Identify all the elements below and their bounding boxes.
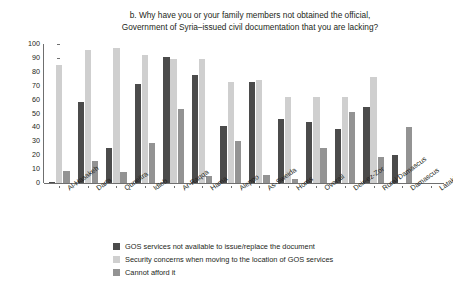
x-tick-mark — [374, 186, 375, 188]
bar-group — [335, 44, 356, 183]
bar — [63, 171, 69, 184]
legend-label: GOS services not available to issue/repl… — [125, 242, 315, 251]
bar-groups — [45, 44, 445, 183]
x-tick-mark — [174, 186, 175, 188]
bar — [206, 176, 212, 183]
bar-group — [392, 44, 413, 183]
bar — [199, 59, 205, 183]
x-tick-mark — [116, 186, 117, 188]
legend-label: Cannot afford it — [125, 268, 175, 277]
y-tick-label-40: 40 — [16, 123, 40, 131]
bar-group — [192, 44, 213, 183]
chart-title-line-1: b. Why have you or your family members n… — [60, 10, 440, 22]
y-tick-label-30: 30 — [16, 137, 40, 145]
bar-group — [106, 44, 127, 183]
bar — [178, 109, 184, 183]
y-tick-label-90: 90 — [16, 54, 40, 62]
x-tick-mark — [231, 186, 232, 188]
y-tick-label-0: 0 — [16, 179, 40, 187]
x-tick-label: Dar'a — [95, 186, 100, 192]
y-tick-label-100: 100 — [16, 40, 40, 48]
legend-swatch-icon — [113, 269, 120, 276]
bar — [320, 148, 326, 183]
bar-group — [135, 44, 156, 183]
bar — [313, 97, 319, 183]
bar — [78, 102, 84, 183]
bar — [306, 122, 312, 183]
x-tick-label: As-Sweida — [266, 186, 271, 192]
bar — [120, 172, 126, 183]
y-tick-label-20: 20 — [16, 151, 40, 159]
bar — [85, 50, 91, 183]
bar-group — [249, 44, 270, 183]
x-tick-label: Quneitra — [123, 186, 128, 192]
bar-group — [49, 44, 70, 183]
legend-swatch-icon — [113, 243, 120, 250]
x-tick-mark — [288, 186, 289, 188]
bar — [142, 55, 148, 183]
x-tick-label: Homs — [295, 186, 300, 192]
bar — [342, 97, 348, 183]
x-tick-label: Damascus — [409, 186, 414, 192]
bar — [263, 175, 269, 183]
x-tick-label: Ar-Raqqa — [181, 186, 186, 192]
x-tick-mark — [402, 186, 403, 188]
y-tick-label-70: 70 — [16, 82, 40, 90]
y-axis-line — [43, 44, 44, 183]
bar-group — [163, 44, 184, 183]
bar — [235, 141, 241, 183]
x-tick-mark — [316, 186, 317, 188]
x-tick-label: Aleppo — [238, 186, 243, 192]
bar-group — [278, 44, 299, 183]
y-axis-ticks: 0102030405060708090100 — [16, 40, 40, 187]
bar — [49, 182, 55, 183]
bar — [149, 143, 155, 183]
x-tick-label: Deir-ez-Zor — [352, 186, 357, 192]
x-tick-mark — [88, 186, 89, 188]
bar — [192, 75, 198, 183]
x-tick-label: Hama — [209, 186, 214, 192]
x-tick-mark — [202, 186, 203, 188]
bar — [256, 80, 262, 183]
bar — [349, 112, 355, 183]
chart-title: b. Why have you or your family members n… — [60, 10, 440, 33]
bar-group — [220, 44, 241, 183]
bar — [163, 57, 169, 183]
legend-item[interactable]: GOS services not available to issue/repl… — [113, 240, 443, 252]
legend-label: Security concerns when moving to the loc… — [125, 255, 333, 264]
y-tick-label-60: 60 — [16, 96, 40, 104]
x-tick-mark — [431, 186, 432, 188]
bar — [56, 65, 62, 183]
y-tick-label-50: 50 — [16, 110, 40, 118]
bar-group — [306, 44, 327, 183]
x-tick-mark — [59, 186, 60, 188]
bar-group — [78, 44, 99, 183]
x-tick-label: Idleb — [152, 186, 157, 192]
bar — [113, 48, 119, 183]
chart-container: b. Why have you or your family members n… — [0, 0, 453, 282]
bar — [170, 59, 176, 183]
bar — [249, 82, 255, 183]
bar — [228, 82, 234, 183]
bar — [363, 107, 369, 183]
chart-title-line-2: Government of Syria–issued civil documen… — [60, 22, 440, 34]
y-tick-label-10: 10 — [16, 165, 40, 173]
x-tick-label: Al-Hasakeh — [66, 186, 71, 192]
x-tick-mark — [259, 186, 260, 188]
x-tick-mark — [145, 186, 146, 188]
y-tick-label-80: 80 — [16, 68, 40, 76]
x-tick-label: Overall — [323, 186, 328, 192]
bar — [135, 84, 141, 183]
bar-group — [363, 44, 384, 183]
x-tick-label: Rural Damascus — [381, 186, 386, 192]
legend-swatch-icon — [113, 256, 120, 263]
legend-item[interactable]: Cannot afford it — [113, 266, 443, 278]
bar — [292, 179, 298, 183]
legend-item[interactable]: Security concerns when moving to the loc… — [113, 253, 443, 265]
x-tick-mark — [345, 186, 346, 188]
x-tick-label: Latakia — [438, 186, 443, 192]
x-axis-labels: Al-HasakehDar'aQuneitraIdlebAr-RaqqaHama… — [45, 186, 445, 238]
chart-legend: GOS services not available to issue/repl… — [113, 240, 443, 279]
